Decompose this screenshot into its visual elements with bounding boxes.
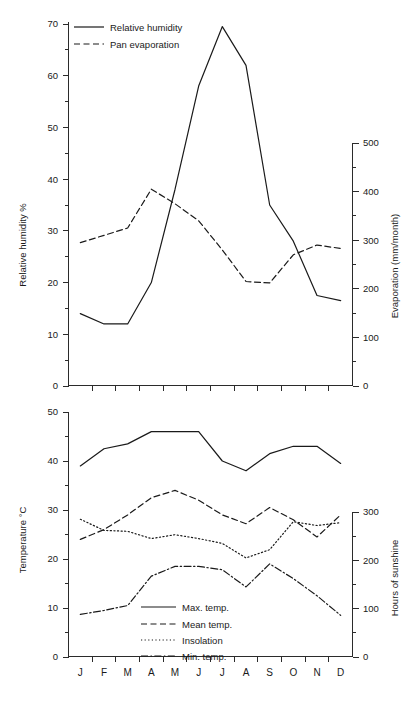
- axis-tick-label: 50: [47, 122, 58, 133]
- top-left-axis-title: Relative humidity %: [17, 203, 28, 287]
- axis-tick-label: 30: [47, 225, 58, 236]
- series-line-max-temp: [80, 432, 340, 471]
- axis-tick-label: 0: [53, 651, 58, 662]
- axis-tick-label: 30: [47, 504, 58, 515]
- legend-label-mean-temp: Mean temp.: [182, 619, 232, 630]
- legend-label-max-temp: Max. temp.: [182, 602, 229, 613]
- axis-tick-label: 20: [47, 553, 58, 564]
- bottom-panel: 01020304050 Temperature °C JFMAMJJASOND …: [17, 406, 400, 678]
- top-right-axis-title: Evaporation (mm/month): [389, 214, 400, 319]
- bottom-left-axis: 01020304050 Temperature °C: [17, 406, 69, 662]
- top-panel: 010203040506070 Relative humidity % 0100…: [17, 18, 400, 391]
- series-line-relative-humidity: [80, 27, 340, 324]
- axis-tick-label: 0: [363, 380, 368, 391]
- top-panel-series: [80, 27, 340, 324]
- axis-tick-label: 0: [363, 651, 368, 662]
- axis-tick-label: 100: [363, 332, 379, 343]
- axis-tick-label: 20: [47, 277, 58, 288]
- axis-tick-label: 500: [363, 137, 379, 148]
- axis-tick-label: 200: [363, 555, 379, 566]
- legend-label-min-temp: Min. temp.: [182, 651, 226, 662]
- x-axis-month-label: M: [171, 667, 179, 678]
- legend-label-pan-evaporation: Pan evaporation: [110, 39, 179, 50]
- axis-tick-label: 0: [53, 380, 58, 391]
- x-axis-month-label: M: [123, 667, 131, 678]
- axis-tick-label: 40: [47, 174, 58, 185]
- x-axis-month-label: S: [266, 667, 273, 678]
- bottom-right-axis: 0100200300 Hours of sunshine: [353, 506, 401, 662]
- bottom-panel-series: [80, 432, 340, 616]
- axis-tick-label: 70: [47, 18, 58, 29]
- chart-canvas: 010203040506070 Relative humidity % 0100…: [0, 0, 415, 707]
- climate-chart-figure: 010203040506070 Relative humidity % 0100…: [0, 0, 415, 707]
- bottom-left-axis-title: Temperature °C: [17, 507, 28, 574]
- bottom-panel-legend: Max. temp. Mean temp. Insolation Min. te…: [141, 602, 232, 662]
- legend-label-relative-humidity: Relative humidity: [110, 22, 183, 33]
- axis-tick-label: 100: [363, 603, 379, 614]
- axis-tick-label: 200: [363, 283, 379, 294]
- axis-tick-label: 10: [47, 329, 58, 340]
- bottom-left-axis-ticks: [63, 412, 69, 657]
- top-right-axis-ticks: [353, 143, 359, 386]
- x-axis-month-label: J: [220, 667, 225, 678]
- top-left-axis-tick-labels: 010203040506070: [47, 18, 58, 391]
- axis-tick-label: 40: [47, 455, 58, 466]
- axis-tick-label: 50: [47, 406, 58, 417]
- x-axis-month-label: J: [78, 667, 83, 678]
- top-left-axis: 010203040506070 Relative humidity %: [17, 18, 69, 391]
- axis-tick-label: 300: [363, 235, 379, 246]
- top-panel-legend: Relative humidity Pan evaporation: [74, 22, 183, 50]
- top-right-axis-tick-labels: 0100200300400500: [363, 137, 379, 391]
- x-axis-month-label: N: [313, 667, 320, 678]
- top-left-axis-ticks: [63, 24, 69, 386]
- bottom-right-axis-title: Hours of sunshine: [389, 540, 400, 617]
- top-x-axis-ticks: [92, 386, 329, 391]
- bottom-right-axis-tick-labels: 0100200300: [363, 506, 379, 662]
- series-line-mean-temp: [80, 490, 340, 539]
- axis-tick-label: 60: [47, 70, 58, 81]
- series-line-insolation: [80, 519, 340, 558]
- bottom-left-axis-tick-labels: 01020304050: [47, 406, 58, 662]
- top-x-axis: [69, 386, 353, 392]
- x-axis-month-label: F: [101, 667, 107, 678]
- series-line-pan-evaporation: [80, 189, 340, 283]
- x-axis-month-label: D: [337, 667, 344, 678]
- x-axis-month-label: O: [289, 667, 297, 678]
- bottom-x-axis-month-labels: JFMAMJJASOND: [78, 667, 344, 678]
- axis-tick-label: 10: [47, 602, 58, 613]
- axis-tick-label: 400: [363, 186, 379, 197]
- x-axis-month-label: A: [148, 667, 155, 678]
- legend-label-insolation: Insolation: [182, 635, 223, 646]
- x-axis-month-label: J: [196, 667, 201, 678]
- top-right-axis: 0100200300400500 Evaporation (mm/month): [353, 137, 401, 391]
- x-axis-month-label: A: [243, 667, 250, 678]
- bottom-right-axis-ticks: [353, 512, 359, 657]
- axis-tick-label: 300: [363, 506, 379, 517]
